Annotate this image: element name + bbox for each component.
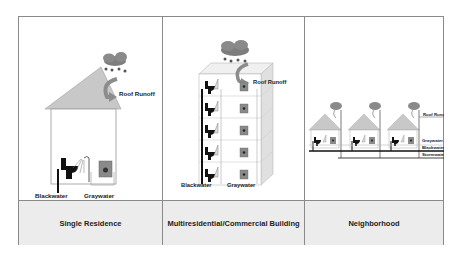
comparison-table: Roof Runoff Blackwater Graywater: [18, 16, 444, 245]
neighborhood-houses: [309, 102, 420, 158]
blackwater-label: Blackwater: [35, 192, 68, 199]
washing-machine-icon: [240, 148, 248, 157]
label-neighborhood: Neighborhood: [304, 200, 443, 245]
panel-title: Multiresidential/Commercial Building: [167, 219, 299, 228]
washing-machine-icon: [240, 126, 248, 135]
washing-machine-icon: [99, 161, 112, 177]
washing-machine-icon: [240, 104, 248, 113]
house-roof: [45, 67, 121, 109]
house: [309, 102, 342, 158]
tree-icon: [408, 102, 420, 118]
multiresidential-building-diagram: Roof Runoff Blackwater Graywater: [162, 17, 304, 200]
blackwater-label: Blackwater: [422, 145, 444, 150]
single-residence-diagram: Roof Runoff Blackwater Graywater: [19, 17, 162, 200]
washing-machine-icon: [369, 137, 375, 144]
neighborhood-diagram: Roof Runoff Graywater Blackwater Stormwa…: [304, 17, 443, 200]
roof-runoff-label: Roof Runoff: [423, 112, 444, 117]
washing-machine-icon: [240, 82, 248, 91]
house-roof: [348, 114, 380, 130]
tree-icon: [330, 102, 342, 118]
washing-machine-icon: [330, 137, 336, 144]
washing-machine-icon: [240, 170, 248, 179]
rain-cloud-icon: [221, 40, 249, 63]
blackwater-label: Blackwater: [181, 182, 212, 188]
rain-cloud-icon: [103, 52, 127, 73]
roof-runoff-label: Roof Runoff: [119, 90, 156, 97]
stormwater-label: Stormwater: [422, 152, 444, 157]
graywater-label: Graywater: [422, 138, 443, 143]
graywater-label: Graywater: [84, 192, 115, 199]
washing-machine-icon: [408, 137, 414, 144]
label-multiresidential-building: Multiresidential/Commercial Building: [162, 200, 304, 245]
house-roof: [387, 114, 419, 130]
label-single-residence: Single Residence: [19, 200, 162, 245]
tree-icon: [369, 102, 381, 118]
panel-title: Single Residence: [59, 219, 121, 228]
house-roof: [309, 114, 341, 130]
roof-runoff-label: Roof Runoff: [253, 79, 287, 85]
house: [387, 102, 420, 158]
graywater-label: Graywater: [227, 182, 256, 188]
panel-title: Neighborhood: [348, 219, 399, 228]
house: [348, 102, 381, 158]
